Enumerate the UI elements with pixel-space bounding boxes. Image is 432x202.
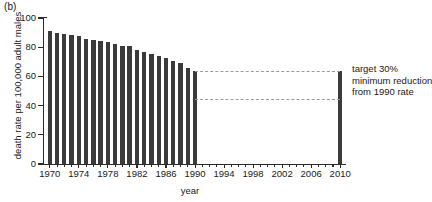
bar [157,56,161,164]
x-tick-minor [209,164,210,167]
y-tick [38,17,43,18]
bar-series [44,18,346,164]
bar [135,50,139,164]
annotation-line-2: minimum reduction [352,75,432,87]
x-tick-minor [332,164,333,167]
bar [62,34,66,164]
bar [120,46,124,164]
reference-line [195,71,340,72]
x-tick-minor [260,164,261,167]
x-tick-minor [289,164,290,167]
x-tick-minor [151,164,152,167]
x-tick-minor [93,164,94,167]
x-tick-minor [57,164,58,167]
annotation-line-3: from 1990 rate [352,86,432,98]
bar [178,63,182,164]
bar [142,52,146,164]
bar [106,42,110,164]
x-tick-minor [325,164,326,167]
y-tick-label: 40 [10,101,36,111]
bar [84,39,88,164]
reference-line [195,99,340,100]
target-annotation: target 30% minimum reduction from 1990 r… [352,63,432,98]
y-tick-label: 100 [10,13,36,23]
x-tick-minor [115,164,116,167]
x-tick-minor [274,164,275,167]
y-tick-label: 80 [10,42,36,52]
x-tick-minor [64,164,65,167]
y-tick-label: 20 [10,130,36,140]
x-tick-minor [231,164,232,167]
x-axis-label: year [150,185,230,196]
x-tick-minor [100,164,101,167]
x-tick-minor [71,164,72,167]
y-tick [38,134,43,135]
bar [69,35,73,164]
bar [186,68,190,164]
x-tick-minor [238,164,239,167]
bar [113,44,117,164]
y-tick [38,76,43,77]
x-tick-minor [158,164,159,167]
x-tick-minor [122,164,123,167]
x-tick-minor [245,164,246,167]
bar [338,71,342,164]
bar [77,36,81,164]
bar [149,54,153,164]
annotation-line-1: target 30% [352,63,432,75]
bar [171,61,175,164]
x-tick-minor [173,164,174,167]
x-tick-minor [144,164,145,167]
bar [98,41,102,164]
x-tick-minor [318,164,319,167]
y-tick [38,163,43,164]
bar [91,40,95,164]
x-tick-minor [129,164,130,167]
y-tick-label: 0 [10,159,36,169]
bar [55,33,59,164]
x-tick-minor [216,164,217,167]
y-tick [38,105,43,106]
x-tick-minor [296,164,297,167]
bar [193,71,197,164]
y-tick-label: 60 [10,71,36,81]
x-tick-minor [267,164,268,167]
x-tick-minor [303,164,304,167]
x-tick-minor [187,164,188,167]
x-tick-minor [86,164,87,167]
x-tick-minor [202,164,203,167]
y-tick [38,47,43,48]
bar [164,58,168,164]
bar [48,31,52,164]
x-tick-label: 2010 [320,169,360,179]
bar [127,46,131,164]
x-tick-minor [180,164,181,167]
